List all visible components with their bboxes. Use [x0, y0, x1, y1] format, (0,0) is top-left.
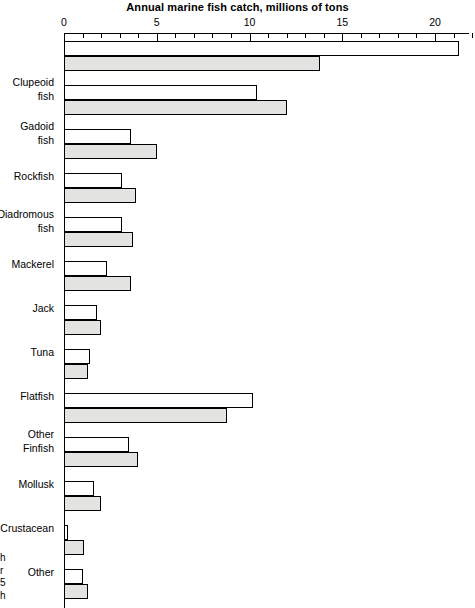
axis-tick-minor	[305, 33, 306, 38]
axis-tick-minor	[454, 33, 455, 38]
axis-tick-minor	[175, 33, 176, 38]
bar-lower-bar	[64, 56, 320, 71]
bar-upper-bar	[64, 129, 131, 144]
axis-tick-label: 0	[61, 16, 67, 28]
axis-tick-label: 10	[244, 16, 256, 28]
chart-root: Annual marine fish catch, millions of to…	[0, 0, 475, 608]
axis-tick-minor	[83, 33, 84, 38]
bar-lower-bar	[64, 276, 131, 291]
bar-lower-bar	[64, 584, 88, 599]
axis-tick-minor	[472, 33, 473, 38]
category-label: Diadromous fish	[0, 208, 54, 235]
axis-tick-label: 5	[154, 16, 160, 28]
bar-lower-bar	[64, 364, 88, 379]
bar-upper-bar	[64, 305, 97, 320]
axis-tick-minor	[287, 33, 288, 38]
bar-lower-bar	[64, 320, 101, 335]
axis-tick-minor	[120, 33, 121, 38]
axis-tick-minor	[416, 33, 417, 38]
bar-lower-bar	[64, 232, 133, 247]
bar-lower-bar	[64, 100, 287, 115]
bar-upper-bar	[64, 393, 253, 408]
clipped-side-note: h r 5 h	[0, 552, 10, 602]
axis-tick-minor	[212, 33, 213, 38]
bar-upper-bar	[64, 525, 68, 540]
category-label: Flatfish	[20, 390, 54, 404]
axis-tick-minor	[379, 33, 380, 38]
bar-upper-bar	[64, 481, 94, 496]
bar-upper-bar	[64, 349, 90, 364]
bar-upper-bar	[64, 437, 129, 452]
category-axis-labels: Clupeoid fishGadoid fishRockfishDiadromo…	[0, 33, 58, 608]
plot-area: 05101520	[64, 33, 475, 608]
bar-upper-bar	[64, 85, 257, 100]
category-label: Other Finfish	[23, 428, 54, 455]
category-label: Jack	[32, 302, 54, 316]
bar-lower-bar	[64, 496, 101, 511]
category-label: Mollusk	[18, 478, 54, 492]
axis-tick-minor	[268, 33, 269, 38]
category-label: Gadoid fish	[20, 120, 54, 147]
axis-tick-minor	[324, 33, 325, 38]
category-label: Tuna	[30, 346, 54, 360]
bar-lower-bar	[64, 452, 138, 467]
category-label: Clupeoid fish	[13, 76, 54, 103]
bar-lower-bar	[64, 408, 227, 423]
value-axis-line	[64, 33, 469, 34]
axis-tick-minor	[194, 33, 195, 38]
bar-lower-bar	[64, 540, 84, 555]
category-label: Mackerel	[11, 258, 54, 272]
category-label: Other	[28, 566, 54, 580]
axis-tick-minor	[361, 33, 362, 38]
category-label: Crustacean	[0, 522, 54, 536]
axis-tick-minor	[138, 33, 139, 38]
axis-tick-label: 15	[336, 16, 348, 28]
bar-upper-bar	[64, 217, 122, 232]
bar-upper-bar	[64, 261, 107, 276]
bar-lower-bar	[64, 188, 136, 203]
axis-tick-minor	[101, 33, 102, 38]
axis-tick-minor	[231, 33, 232, 38]
bar-upper-bar	[64, 41, 459, 56]
bar-upper-bar	[64, 173, 122, 188]
chart-title: Annual marine fish catch, millions of to…	[0, 1, 475, 13]
bar-lower-bar	[64, 144, 157, 159]
category-label: Rockfish	[14, 170, 54, 184]
bar-upper-bar	[64, 569, 83, 584]
axis-tick-label: 20	[429, 16, 441, 28]
axis-tick-minor	[398, 33, 399, 38]
